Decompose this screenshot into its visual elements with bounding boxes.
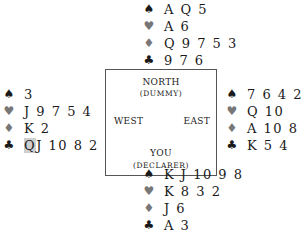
north-hearts: A 6 bbox=[164, 18, 190, 35]
north-hand: ♠ A Q 5 ♥ A 6 ♦ Q 9 7 5 3 ♣ 9 7 6 bbox=[143, 1, 238, 69]
east-clubs: K 5 4 bbox=[247, 137, 289, 154]
west-hearts: J 9 7 5 4 bbox=[24, 103, 92, 120]
west-spades-row: ♠ 3 bbox=[3, 86, 99, 103]
south-hearts: K 8 3 2 bbox=[164, 183, 221, 200]
diamond-icon: ♦ bbox=[143, 200, 155, 217]
south-diamonds: J 6 bbox=[164, 200, 186, 217]
south-spades: K J 10 9 8 bbox=[164, 166, 244, 183]
south-clubs: A 3 bbox=[164, 217, 190, 234]
south-spades-row: ♠ K J 10 9 8 bbox=[143, 166, 244, 183]
west-diamonds-row: ♦ K 2 bbox=[3, 120, 99, 137]
east-clubs-row: ♣ K 5 4 bbox=[226, 137, 304, 154]
club-icon: ♣ bbox=[143, 52, 155, 69]
north-sublabel: (DUMMY) bbox=[106, 89, 216, 98]
diamond-icon: ♦ bbox=[226, 120, 238, 137]
east-hearts: Q 10 bbox=[247, 103, 284, 120]
north-spades: A Q 5 bbox=[164, 1, 208, 18]
east-hand: ♠ 7 6 4 2 ♥ Q 10 ♦ A 10 8 4 ♣ K 5 4 bbox=[226, 86, 304, 154]
spade-icon: ♠ bbox=[226, 86, 238, 103]
east-diamonds: A 10 8 4 bbox=[247, 120, 304, 137]
spade-icon: ♠ bbox=[143, 1, 155, 18]
west-clubs-row: ♣ QJ 10 8 2 bbox=[3, 137, 99, 154]
east-label: EAST bbox=[184, 116, 210, 126]
east-hearts-row: ♥ Q 10 bbox=[226, 103, 304, 120]
south-hearts-row: ♥ K 8 3 2 bbox=[143, 183, 244, 200]
table-diagram: NORTH (DUMMY) WEST EAST YOU (DECLARER) bbox=[105, 69, 217, 176]
west-clubs-rest: J 10 8 2 bbox=[36, 138, 99, 153]
north-diamonds-row: ♦ Q 9 7 5 3 bbox=[143, 35, 238, 52]
north-spades-row: ♠ A Q 5 bbox=[143, 1, 238, 18]
north-clubs: 9 7 6 bbox=[164, 52, 205, 69]
south-clubs-row: ♣ A 3 bbox=[143, 217, 244, 234]
west-diamonds: K 2 bbox=[24, 120, 51, 137]
west-hand: ♠ 3 ♥ J 9 7 5 4 ♦ K 2 ♣ QJ 10 8 2 bbox=[3, 86, 99, 154]
diamond-icon: ♦ bbox=[3, 120, 15, 137]
club-icon: ♣ bbox=[226, 137, 238, 154]
heart-icon: ♥ bbox=[143, 18, 155, 35]
heart-icon: ♥ bbox=[3, 103, 15, 120]
west-label: WEST bbox=[114, 116, 143, 126]
west-spades: 3 bbox=[24, 86, 34, 103]
north-clubs-row: ♣ 9 7 6 bbox=[143, 52, 238, 69]
west-clubs: QJ 10 8 2 bbox=[24, 137, 99, 154]
east-diamonds-row: ♦ A 10 8 4 bbox=[226, 120, 304, 137]
east-spades: 7 6 4 2 bbox=[247, 86, 303, 103]
south-hand: ♠ K J 10 9 8 ♥ K 8 3 2 ♦ J 6 ♣ A 3 bbox=[143, 166, 244, 234]
club-icon: ♣ bbox=[143, 217, 155, 234]
south-diamonds-row: ♦ J 6 bbox=[143, 200, 244, 217]
east-spades-row: ♠ 7 6 4 2 bbox=[226, 86, 304, 103]
highlighted-card: Q bbox=[24, 138, 36, 153]
north-label: NORTH bbox=[106, 77, 216, 87]
spade-icon: ♠ bbox=[3, 86, 15, 103]
diamond-icon: ♦ bbox=[143, 35, 155, 52]
spade-icon: ♠ bbox=[143, 166, 155, 183]
west-hearts-row: ♥ J 9 7 5 4 bbox=[3, 103, 99, 120]
north-hearts-row: ♥ A 6 bbox=[143, 18, 238, 35]
heart-icon: ♥ bbox=[226, 103, 238, 120]
south-label: YOU bbox=[106, 148, 216, 158]
heart-icon: ♥ bbox=[143, 183, 155, 200]
north-diamonds: Q 9 7 5 3 bbox=[164, 35, 238, 52]
club-icon: ♣ bbox=[3, 137, 15, 154]
